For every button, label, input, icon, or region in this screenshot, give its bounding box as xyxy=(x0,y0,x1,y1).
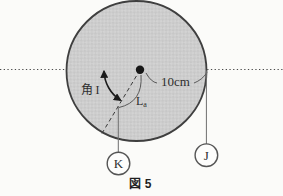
figure-container: 角 I La 10cm K J 図 5 xyxy=(0,0,283,196)
figure-5-diagram: 角 I La 10cm K J 図 5 xyxy=(0,0,283,196)
weight-j-label: J xyxy=(204,148,209,163)
arc-length-label-base: L xyxy=(136,94,143,108)
arc-length-label-subscript: a xyxy=(143,100,147,109)
figure-caption: 図 5 xyxy=(129,177,151,191)
angle-label: 角 I xyxy=(81,83,100,97)
disk-center-dot xyxy=(136,66,144,74)
radius-length-label: 10cm xyxy=(161,74,190,89)
weight-k-label: K xyxy=(114,156,124,171)
